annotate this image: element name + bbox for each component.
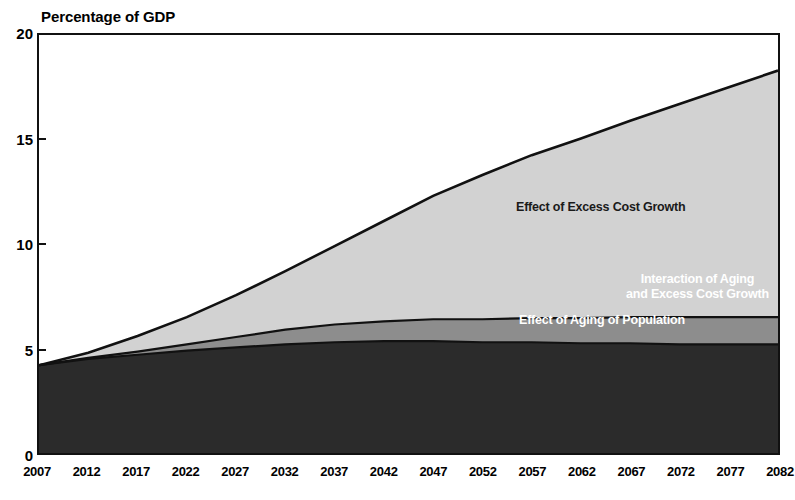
x-axis-tick-label: 2042 xyxy=(370,464,398,479)
y-axis-tick-label: 5 xyxy=(25,341,33,358)
x-axis-tick-label: 2052 xyxy=(469,464,497,479)
band-label-interaction: Interaction of Aging and Excess Cost Gro… xyxy=(626,272,769,302)
x-axis-tick-label: 2057 xyxy=(518,464,546,479)
y-axis-tick-label: 15 xyxy=(16,130,33,147)
x-axis-tick-label: 2077 xyxy=(717,464,745,479)
x-axis-tick-label: 2082 xyxy=(766,464,794,479)
y-axis-tick-label: 20 xyxy=(16,25,33,42)
x-axis-tick-label: 2017 xyxy=(122,464,150,479)
x-axis-tick-label: 2012 xyxy=(73,464,101,479)
x-axis-tick-label: 2062 xyxy=(568,464,596,479)
x-axis-tick-label: 2022 xyxy=(172,464,200,479)
area-chart-svg xyxy=(39,35,778,453)
y-axis-tick-label: 10 xyxy=(16,236,33,253)
y-axis-tick-mark xyxy=(37,138,46,140)
chart-figure: Percentage of GDP 05101520 2007201220172… xyxy=(0,0,795,500)
x-axis-tick-label: 2037 xyxy=(320,464,348,479)
x-axis-tick-label: 2047 xyxy=(419,464,447,479)
x-axis-tick-label: 2032 xyxy=(271,464,299,479)
axis-title: Percentage of GDP xyxy=(41,8,175,25)
band-label-interaction-line1: Interaction of Aging xyxy=(626,272,769,287)
y-axis-tick-mark xyxy=(37,349,46,351)
x-axis-tick-label: 2007 xyxy=(23,464,51,479)
x-axis-tick-label: 2027 xyxy=(221,464,249,479)
y-axis-tick-label: 0 xyxy=(25,447,33,464)
area-band xyxy=(39,341,778,453)
band-label-interaction-line2: and Excess Cost Growth xyxy=(626,287,769,302)
plot-area xyxy=(37,33,780,455)
y-axis-tick-mark xyxy=(37,243,46,245)
band-label-excess-cost-growth: Effect of Excess Cost Growth xyxy=(516,200,685,215)
x-axis-tick-label: 2072 xyxy=(667,464,695,479)
x-axis-tick-label: 2067 xyxy=(618,464,646,479)
band-label-aging: Effect of Aging of Population xyxy=(519,313,685,328)
